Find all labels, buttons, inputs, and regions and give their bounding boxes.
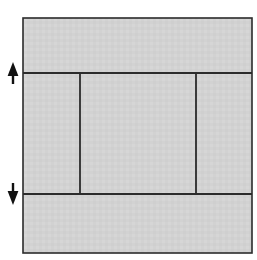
arrow-up-icon: [8, 62, 19, 84]
arrow-down-icon: [8, 183, 19, 205]
outer-boundary-fill: [23, 18, 252, 253]
partition-diagram: [0, 0, 257, 260]
diagram-canvas: [0, 0, 257, 260]
